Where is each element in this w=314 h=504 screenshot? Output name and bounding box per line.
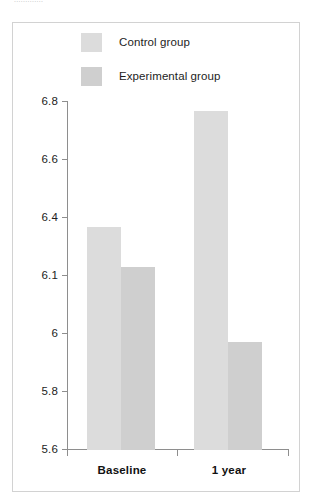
y-axis-ticks — [62, 102, 68, 450]
bar-chart-plot: 6.8 6.6 6.4 6.1 6 5.8 5.6 Bas — [13, 23, 301, 493]
x-tick-label-baseline: Baseline — [98, 464, 147, 476]
y-tick-label: 6.6 — [41, 153, 58, 165]
y-tick-label: 6 — [51, 327, 58, 339]
bar-baseline-experimental — [121, 267, 155, 450]
y-tick-label: 5.6 — [41, 443, 58, 455]
x-axis-tick-labels: Baseline 1 year — [98, 464, 247, 476]
x-tick-label-1year: 1 year — [212, 464, 247, 476]
x-axis-ticks — [68, 450, 289, 457]
figure-frame: Control group Experimental group — [12, 22, 300, 492]
y-tick-label: 6.1 — [41, 269, 58, 281]
bar-1year-control — [194, 111, 228, 450]
y-tick-label: 6.8 — [41, 95, 58, 107]
bar-1year-experimental — [228, 342, 262, 450]
y-tick-label: 6.4 — [41, 211, 58, 223]
clipped-top-text: ............. — [14, 0, 76, 4]
y-axis-tick-labels: 6.8 6.6 6.4 6.1 6 5.8 5.6 — [41, 95, 58, 455]
y-tick-label: 5.8 — [41, 385, 58, 397]
bar-baseline-control — [87, 227, 121, 450]
